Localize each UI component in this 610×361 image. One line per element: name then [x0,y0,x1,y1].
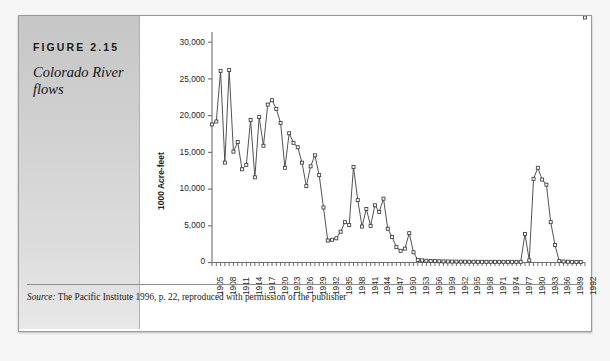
data-point-marker [502,260,505,263]
data-point-marker [545,183,548,186]
data-point-marker [253,176,256,179]
data-point-marker [339,230,342,233]
x-axis-tick-label: 1953 [421,277,431,295]
data-point-marker [386,227,389,230]
data-point-marker [438,260,441,263]
data-point-marker [382,197,385,200]
data-point-marker [506,260,509,263]
data-point-marker [365,207,368,210]
data-point-marker [395,246,398,249]
data-point-marker [408,232,411,235]
source-prefix: Source: [27,292,56,302]
data-point-marker [228,69,231,72]
caption-panel: FIGURE 2.15 Colorado River flows [19,16,140,329]
data-point-marker [519,260,522,263]
data-point-marker [378,210,381,213]
data-point-marker [249,119,252,122]
data-point-marker [515,260,518,263]
data-point-marker [343,221,346,224]
data-point-marker [511,260,514,263]
data-point-marker [352,166,355,169]
x-axis-tick-label: 1962 [460,277,470,295]
data-point-marker [373,204,376,207]
data-point-marker [541,178,544,181]
x-axis-tick-label: 1971 [498,277,508,295]
data-point-marker [288,132,291,135]
data-point-marker [476,260,479,263]
data-point-marker [211,123,214,126]
data-point-marker [292,141,295,144]
data-point-marker [416,258,419,261]
data-point-marker [215,120,218,123]
data-point-marker [275,108,278,111]
data-point-marker [313,154,316,157]
data-point-marker [296,146,299,149]
data-point-marker [562,260,565,263]
x-axis-tick-label: 1956 [434,277,444,295]
figure-frame: FIGURE 2.15 Colorado River flows 1000 Ac… [18,15,592,332]
data-point-marker [258,116,261,119]
data-point-marker [322,206,325,209]
data-point-marker [219,69,222,72]
data-point-marker [326,239,329,242]
data-point-marker [584,16,587,19]
data-point-marker [421,259,424,262]
x-axis-tick-label: 1947 [395,277,405,295]
data-point-marker [335,237,338,240]
data-point-marker [356,199,359,202]
data-point-marker [455,260,458,263]
data-point-marker [305,185,308,188]
data-point-marker [301,161,304,164]
x-axis-tick-label: 1977 [524,277,534,295]
data-point-marker [571,260,574,263]
data-point-marker [245,163,248,166]
data-point-marker [468,260,471,263]
data-point-marker [241,168,244,171]
data-point-marker [223,161,226,164]
data-point-marker [553,243,556,246]
data-point-marker [361,225,364,228]
x-axis-tick-label: 1941 [370,277,380,295]
x-axis-tick-label: 1938 [357,277,367,295]
data-point-marker [236,141,239,144]
source-note: Source: The Pacific Institute 1996, p. 2… [27,292,346,302]
data-point-marker [425,259,428,262]
data-point-marker [459,260,462,263]
data-point-marker [566,260,569,263]
figure-number-label: FIGURE 2.15 [33,41,119,53]
x-axis-tick-label: 1968 [485,277,495,295]
data-point-marker [399,249,402,252]
data-point-marker [429,259,432,262]
data-point-marker [579,260,582,263]
data-point-marker [403,247,406,250]
data-point-marker [331,238,334,241]
source-text: The Pacific Institute 1996, p. 22, repro… [58,292,347,302]
x-axis-tick-label: 1950 [408,277,418,295]
data-point-marker [283,166,286,169]
data-point-marker [442,260,445,263]
data-point-marker [575,260,578,263]
data-point-marker [532,177,535,180]
data-point-marker [262,144,265,147]
data-point-marker [528,259,531,262]
x-axis-tick-label: 1965 [472,277,482,295]
data-point-marker [279,121,282,124]
data-point-marker [232,150,235,153]
data-point-marker [549,221,552,224]
data-point-marker [536,166,539,169]
x-axis-tick-label: 1986 [562,277,572,295]
data-point-marker [481,260,484,263]
data-point-marker [369,224,372,227]
data-point-marker [463,260,466,263]
x-axis-tick-label: 1980 [537,277,547,295]
data-point-marker [523,232,526,235]
data-point-marker [309,165,312,168]
data-point-marker [498,260,501,263]
data-point-marker [451,260,454,263]
data-point-marker [558,260,561,263]
data-point-marker [489,260,492,263]
data-point-marker [446,260,449,263]
data-point-marker [391,235,394,238]
data-point-marker [485,260,488,263]
data-point-marker [318,174,321,177]
